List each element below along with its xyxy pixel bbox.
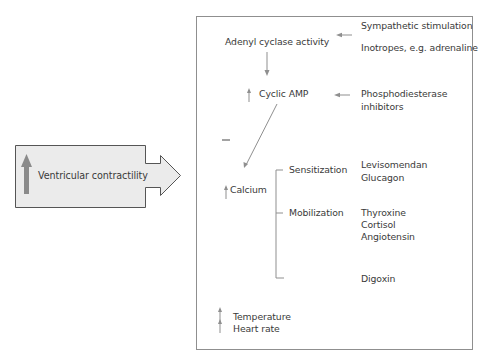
pathway-panel — [196, 16, 473, 350]
temperature-label: Temperature — [233, 311, 291, 324]
levisomendan-label: Levisomendan — [361, 159, 427, 172]
mobilization-label: Mobilization — [289, 207, 344, 220]
digoxin-label: Digoxin — [361, 273, 395, 286]
cyclic-amp-label: Cyclic AMP — [259, 88, 308, 101]
heart-rate-label: Heart rate — [233, 323, 280, 336]
calcium-label: Calcium — [230, 184, 267, 197]
glucagon-label: Glucagon — [361, 172, 404, 185]
cortisol-label: Cortisol — [361, 219, 396, 232]
sympathetic-label: Sympathetic stimulation — [361, 20, 472, 33]
angiotensin-label: Angiotensin — [361, 231, 415, 244]
thyroxine-label: Thyroxine — [361, 207, 406, 220]
sensitization-label: Sensitization — [289, 164, 347, 177]
contractility-label: Ventricular contractility — [38, 170, 148, 183]
pde-label-line1: Phosphodiesterase — [361, 88, 447, 101]
pde-label-line2: inhibitors — [361, 101, 403, 114]
adenyl-cyclase-label: Adenyl cyclase activity — [225, 36, 329, 49]
inotropes-label: Inotropes, e.g. adrenaline — [361, 42, 478, 55]
